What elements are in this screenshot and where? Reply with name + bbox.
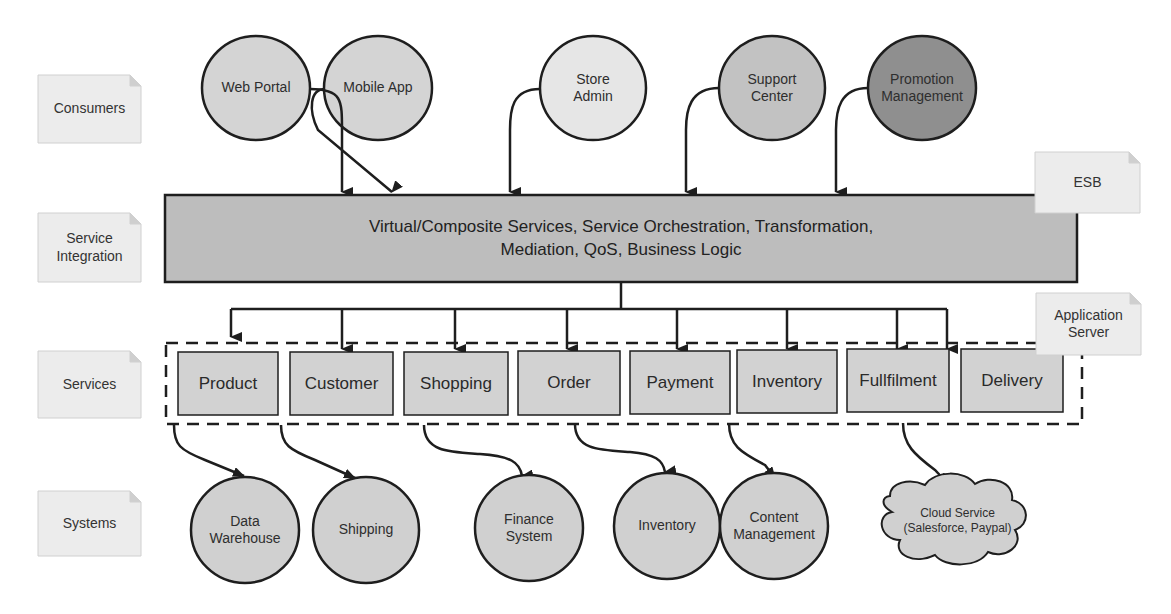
system-finance: Finance System <box>475 475 583 581</box>
arrow-to-content-management <box>729 423 775 478</box>
consumer-web-portal: Web Portal <box>202 36 310 140</box>
arrow-promotion-management <box>836 88 868 192</box>
layer-label-systems: Systems <box>38 491 141 556</box>
arrow-to-data-warehouse <box>174 425 244 476</box>
layer-label-service-integration: Service Integration <box>38 213 141 282</box>
layer-label-consumers: Consumers <box>38 75 141 143</box>
arrow-to-inventory <box>575 424 665 472</box>
arrow-to-finance <box>424 425 522 476</box>
layer-label-services: Services <box>38 351 141 418</box>
arrow-to-shipping <box>281 425 355 478</box>
esb-box-text: Virtual/Composite Services, Service Orch… <box>165 195 1077 282</box>
service-order: Order <box>518 351 620 415</box>
service-product: Product <box>178 352 278 415</box>
system-inventory: Inventory <box>614 473 720 579</box>
service-fullfilment: Fullfilment <box>847 349 949 412</box>
system-cloud-service: Cloud Service (Salesforce, Paypal) <box>885 480 1030 562</box>
consumer-promotion-management: Promotion Management <box>868 36 976 140</box>
consumer-mobile-app: Mobile App <box>324 36 432 140</box>
service-payment: Payment <box>630 351 730 414</box>
service-shopping: Shopping <box>404 352 508 415</box>
consumer-support-center: Support Center <box>719 36 825 140</box>
system-shipping: Shipping <box>313 477 419 583</box>
service-customer: Customer <box>290 352 393 415</box>
service-delivery: Delivery <box>961 349 1063 412</box>
system-data-warehouse: Data Warehouse <box>191 477 299 583</box>
arrow-support-center <box>686 88 719 192</box>
app-server-note-label: Application Server <box>1036 293 1141 355</box>
consumer-store-admin: Store Admin <box>540 36 646 140</box>
arrow-store-admin <box>510 89 540 192</box>
service-inventory: Inventory <box>737 350 837 413</box>
system-content-management: Content Management <box>720 473 828 579</box>
